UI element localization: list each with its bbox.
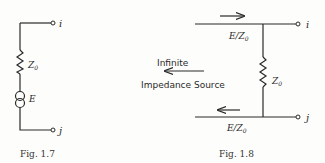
current-source-icon: [16, 92, 25, 108]
circuit-diagrams: i j Z0 E Fig. 1.7 i j E/Z0 E/Z0 Z0 Infin…: [0, 0, 325, 163]
terminal-j: [296, 115, 300, 119]
resistor-zigzag: [17, 50, 23, 74]
terminal-i: [296, 22, 300, 26]
current-bottom-label: E/Z0: [226, 123, 247, 134]
caption-fig-1-7: Fig. 1.7: [20, 149, 55, 159]
figure-1-8: i j E/Z0 E/Z0 Z0 Infinite Impedance Sour…: [141, 16, 309, 159]
terminal-j-label: j: [57, 125, 62, 136]
terminal-i: [51, 21, 55, 25]
caption-fig-1-8: Fig. 1.8: [219, 149, 254, 159]
terminal-j-label: j: [304, 112, 309, 123]
current-top-label: E/Z0: [228, 31, 249, 42]
source-line1-label: Infinite: [157, 58, 189, 68]
terminal-j: [51, 128, 55, 132]
figure-1-7: i j Z0 E Fig. 1.7: [16, 18, 63, 159]
impedance-label: Z0: [271, 76, 282, 87]
terminal-i-label: i: [306, 19, 309, 30]
source-label: E: [28, 94, 36, 104]
terminal-i-label: i: [59, 18, 62, 29]
impedance-label: Z0: [27, 60, 38, 71]
source-line2-label: Impedance Source: [141, 80, 225, 90]
wire-left-lower: [20, 108, 51, 131]
resistor-zigzag: [260, 57, 266, 87]
